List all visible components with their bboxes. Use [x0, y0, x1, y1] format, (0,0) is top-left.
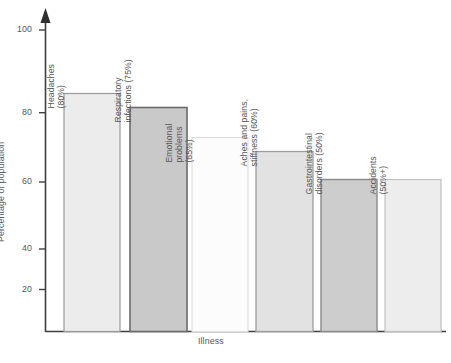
bar-label-aches-and-pains: Aches and pains, stiffness (60%): [239, 99, 259, 167]
bar-label-emotional-problems: Emotional problems (65%): [164, 123, 195, 162]
y-axis-title: Percentage of population: [0, 142, 6, 242]
y-axis-arrow-icon: [41, 8, 51, 23]
y-tick-label-100: 100: [6, 24, 32, 34]
bar-gastrointestinal-disorders[interactable]: [321, 180, 377, 332]
bar-label-headaches: Headaches (80%): [46, 64, 66, 108]
bar-label-accidents: Accidents (50%+): [368, 156, 388, 194]
bar-chart-figure: 100 80 60 40 20 Percentage of population…: [0, 0, 451, 363]
bar-accidents[interactable]: [385, 180, 441, 332]
bar-emotional-problems[interactable]: [192, 138, 248, 332]
y-tick-label-40: 40: [6, 243, 32, 253]
bar-label-respiratory-infections: Respiratory infections (75%): [113, 59, 133, 122]
y-axis-ticks: [39, 30, 46, 290]
x-axis-title: Illness: [198, 336, 224, 346]
y-tick-label-20: 20: [6, 284, 32, 294]
bar-headaches[interactable]: [64, 94, 120, 332]
bar-label-gastrointestinal-disorders: Gastrointestinal disorders (50%): [304, 132, 324, 194]
y-tick-label-60: 60: [6, 176, 32, 186]
y-tick-label-80: 80: [6, 107, 32, 117]
figure-caption: [4, 353, 451, 363]
